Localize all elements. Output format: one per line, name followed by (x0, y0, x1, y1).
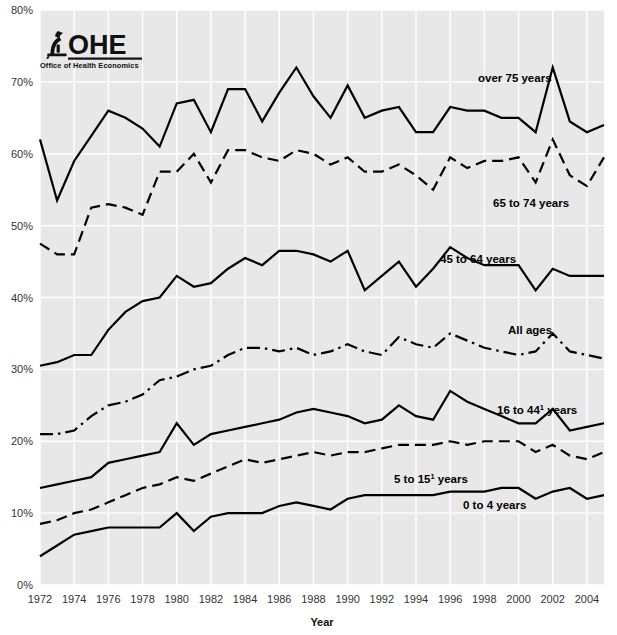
x-axis-tick-label: 1986 (267, 593, 291, 605)
x-axis-tick-label: 1996 (438, 593, 462, 605)
x-axis-tick-label: 2004 (575, 593, 599, 605)
ohe-subtitle: Office of Health Economics (40, 61, 139, 70)
x-axis-title: Year (310, 616, 334, 628)
y-axis-tick-label: 70% (11, 76, 33, 88)
x-axis-tick-label: 1980 (164, 593, 188, 605)
x-axis-tick-label: 1988 (301, 593, 325, 605)
x-axis-tick-label: 1978 (130, 593, 154, 605)
x-axis-tick-label: 2000 (506, 593, 530, 605)
line-chart: 0%10%20%30%40%50%60%70%80% 1972197419761… (0, 0, 617, 635)
series-label-5-to-15-text: 5 to 15 (394, 473, 431, 485)
series-label-all-ages: All ages (508, 324, 552, 336)
y-axis-tick-label: 0% (17, 579, 33, 591)
chart-container: 0%10%20%30%40%50%60%70%80% 1972197419761… (0, 0, 617, 635)
x-axis-tick-label: 2002 (540, 593, 564, 605)
series-label-over-75: over 75 years (478, 72, 552, 84)
x-axis-tick-labels: 1972197419761978198019821984198619881990… (28, 593, 599, 605)
ohe-acronym: OHE (68, 30, 127, 60)
y-axis-tick-label: 40% (11, 292, 33, 304)
series-label-65-to-74: 65 to 74 years (493, 197, 569, 209)
series-label-16-to-44-text: 16 to 44 (497, 404, 540, 416)
series-label-16-to-44-suffix: years (544, 404, 577, 416)
x-axis-tick-label: 1972 (28, 593, 52, 605)
x-axis-tick-label: 1998 (472, 593, 496, 605)
logo-underline (68, 58, 142, 60)
series-label-16-to-44: 16 to 441 years (497, 403, 577, 416)
x-axis-tick-label: 1982 (199, 593, 223, 605)
y-axis-tick-label: 20% (11, 435, 33, 447)
x-axis-tick-label: 1992 (370, 593, 394, 605)
x-axis-tick-label: 1976 (96, 593, 120, 605)
series-label-0-to-4: 0 to 4 years (463, 499, 526, 511)
y-axis-tick-label: 80% (11, 4, 33, 16)
x-axis-tick-label: 1994 (404, 593, 428, 605)
series-label-45-to-64: 45 to 64 years (440, 253, 516, 265)
y-axis-tick-label: 30% (11, 363, 33, 375)
y-axis-tick-label: 10% (11, 507, 33, 519)
x-axis-tick-label: 1990 (335, 593, 359, 605)
x-axis-tick-label: 1974 (62, 593, 86, 605)
x-axis-tick-label: 1984 (233, 593, 257, 605)
y-axis-tick-label: 50% (11, 220, 33, 232)
series-label-5-to-15-suffix: years (435, 473, 468, 485)
y-axis-tick-label: 60% (11, 148, 33, 160)
